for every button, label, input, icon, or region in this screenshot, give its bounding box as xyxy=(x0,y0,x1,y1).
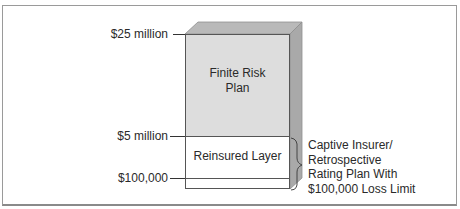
annotation-line-3: Rating Plan With xyxy=(308,167,415,182)
annotation-line-1: Captive Insurer/ xyxy=(308,138,415,153)
annotation-line-4: $100,000 Loss Limit xyxy=(308,182,415,197)
captive-insurer-annotation: Captive Insurer/ Retrospective Rating Pl… xyxy=(308,138,415,196)
annotation-line-2: Retrospective xyxy=(308,153,415,168)
